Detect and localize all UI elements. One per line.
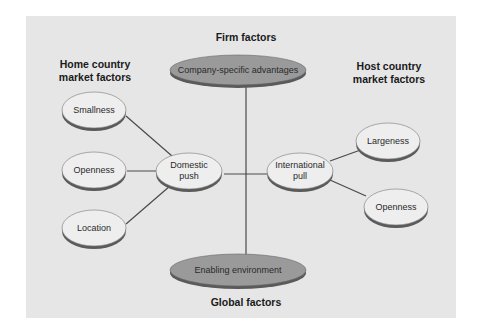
- node-enabling-environment: Enabling environment: [170, 254, 306, 289]
- node-smallness: Smallness: [62, 92, 126, 131]
- node-label: Openness: [73, 165, 115, 175]
- node-label: Openness: [375, 202, 417, 212]
- factors-diagram: Company-specific advantages Enabling env…: [0, 0, 478, 332]
- node-largeness: Largeness: [356, 123, 420, 162]
- title-home-line1: Home country: [60, 58, 131, 70]
- node-label-line1: Domestic: [170, 160, 208, 170]
- title-host-line1: Host country: [357, 60, 422, 72]
- node-international-pull: International pull: [267, 153, 333, 192]
- node-location: Location: [62, 210, 126, 249]
- node-label: Smallness: [73, 105, 115, 115]
- node-label-line2: pull: [293, 171, 307, 181]
- title-home-line2: market factors: [59, 71, 132, 83]
- node-label: Company-specific advantages: [178, 65, 299, 75]
- node-label: Largeness: [367, 136, 410, 146]
- node-label-line2: push: [179, 171, 199, 181]
- node-label-line1: International: [275, 160, 325, 170]
- node-openness-host: Openness: [364, 189, 428, 228]
- node-label: Enabling environment: [194, 265, 282, 275]
- node-label: Location: [77, 223, 111, 233]
- title-firm-factors: Firm factors: [216, 31, 277, 43]
- node-domestic-push: Domestic push: [156, 153, 222, 192]
- title-host-line2: market factors: [353, 73, 426, 85]
- node-openness-home: Openness: [62, 152, 126, 191]
- node-company-advantages: Company-specific advantages: [170, 55, 306, 88]
- title-global-factors: Global factors: [211, 296, 282, 308]
